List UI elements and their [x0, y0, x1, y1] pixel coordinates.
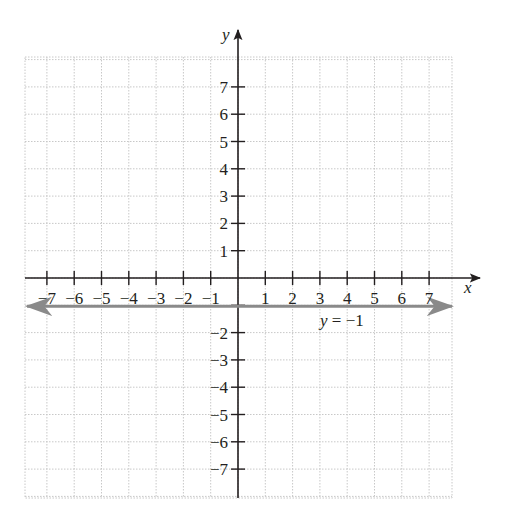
x-tick-label: 5	[370, 289, 379, 308]
y-tick-label: −2	[210, 324, 228, 343]
equation-label: y = −1	[318, 311, 364, 330]
y-tick-label: 3	[220, 187, 229, 206]
y-tick-label: 4	[220, 160, 229, 179]
y-tick-label: −6	[210, 433, 228, 452]
y-tick-label: −7	[210, 460, 229, 479]
y-tick-label: 7	[220, 78, 229, 97]
x-tick-label: 3	[316, 289, 325, 308]
x-tick-label: −5	[92, 289, 110, 308]
x-tick-label: 6	[398, 289, 407, 308]
y-tick-label: −3	[210, 351, 228, 370]
x-tick-label: −3	[147, 289, 165, 308]
y-tick-label: 1	[220, 242, 229, 261]
x-axis-label: x	[463, 278, 472, 297]
x-tick-label: 4	[343, 289, 352, 308]
x-tick-label: −6	[65, 289, 83, 308]
x-tick-label: 1	[261, 289, 270, 308]
x-tick-label: −7	[38, 289, 57, 308]
x-tick-label: −1	[202, 289, 220, 308]
x-tick-label: −4	[120, 289, 139, 308]
y-tick-label: −4	[210, 378, 229, 397]
x-tick-label: −2	[174, 289, 192, 308]
x-tick-label: 2	[288, 289, 297, 308]
x-tick-label: 7	[425, 289, 434, 308]
coordinate-plane: xy −7−6−5−4−3−2−112345677654321−2−3−4−5−…	[0, 0, 507, 527]
y-tick-label: −5	[210, 406, 228, 425]
y-tick-label: 6	[220, 105, 229, 124]
y-tick-label: 5	[220, 133, 229, 152]
y-axis-label: y	[220, 25, 230, 44]
axes: xy	[25, 25, 480, 498]
y-tick-label: 2	[220, 214, 229, 233]
